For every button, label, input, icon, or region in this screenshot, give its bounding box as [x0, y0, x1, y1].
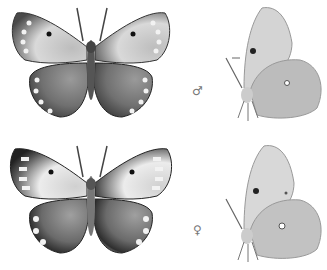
- butterfly-male-ventral: [222, 3, 322, 121]
- butterfly-female-ventral: [222, 141, 322, 263]
- butterfly-female-dorsal: [5, 141, 175, 256]
- male-symbol: ♂: [192, 85, 203, 97]
- butterfly-male-dorsal: [5, 5, 175, 120]
- female-symbol: ♀: [193, 224, 202, 236]
